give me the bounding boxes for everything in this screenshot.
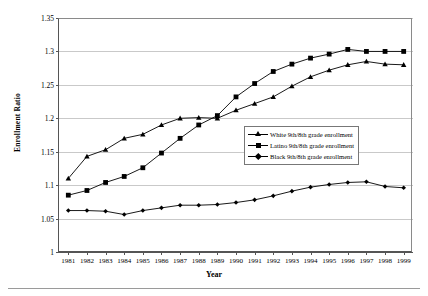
data-point [66,208,71,213]
data-point [289,62,294,67]
legend-marker-icon [248,141,268,150]
x-tick-mark [255,252,256,255]
data-point [66,193,71,198]
data-point [122,174,127,179]
x-tick-mark [217,252,218,255]
x-tick-mark [385,252,386,255]
x-tick-label: 1993 [285,257,299,265]
x-tick-label: 1995 [322,257,336,265]
chart-page: Enrollment Ratio 11.051.11.151.21.251.31… [0,0,428,296]
data-point [215,202,220,207]
data-point [271,69,276,74]
data-point [196,123,201,128]
data-point [85,188,90,193]
legend[interactable]: White 9th/8th grade enrollmentLatino 9th… [244,126,359,165]
x-tick-mark [366,252,367,255]
x-tick-label: 1994 [304,257,318,265]
y-axis-title: Enrollment Ratio [13,73,22,173]
data-point [364,49,369,54]
x-tick-label: 1985 [136,257,150,265]
x-tick-label: 1988 [192,257,206,265]
x-tick-mark [273,252,274,255]
legend-marker-icon [248,152,268,161]
x-tick-mark [292,252,293,255]
footer-divider [8,288,420,289]
data-point [345,180,350,185]
data-point [383,49,388,54]
data-point [383,184,388,189]
x-tick-label: 1996 [341,257,355,265]
data-point [140,165,145,170]
data-point [178,203,183,208]
data-point [103,147,108,152]
x-tick-label: 1999 [397,257,411,265]
y-tick-label: 1.2 [45,114,54,123]
x-tick-label: 1991 [248,257,262,265]
series-diamond [66,180,406,217]
x-tick-mark [68,252,69,255]
x-tick-mark [404,252,405,255]
series-lines [59,18,413,252]
legend-label: White 9th/8th grade enrollment [268,131,353,138]
data-point [159,206,164,211]
x-tick-mark [236,252,237,255]
data-point [271,194,276,199]
y-tick-label: 1.3 [45,47,54,56]
series-square [66,47,406,198]
data-point [159,151,164,156]
x-tick-label: 1982 [80,257,94,265]
legend-marker-icon [248,130,268,139]
x-tick-label: 1992 [266,257,280,265]
data-point [103,180,108,185]
x-tick-label: 1998 [378,257,392,265]
legend-item[interactable]: Black 9th/8th grade enrollment [248,151,354,162]
y-tick-label: 1.05 [41,214,54,223]
data-point [308,56,313,61]
data-point [271,94,276,99]
data-point [215,113,220,118]
x-axis-title: Year [0,270,428,279]
data-point [252,198,257,203]
data-point [401,186,406,191]
x-tick-label: 1987 [173,257,187,265]
data-point [140,132,145,137]
data-point [289,83,294,88]
data-point [290,189,295,194]
x-tick-mark [180,252,181,255]
y-tick-label: 1.15 [41,147,54,156]
data-point [252,81,257,86]
x-tick-mark [143,252,144,255]
data-point [234,200,239,205]
data-point [103,209,108,214]
legend-item[interactable]: Latino 9th/8th grade enrollment [248,140,354,151]
data-point [364,180,369,185]
x-tick-label: 1997 [359,257,373,265]
data-point [122,212,127,217]
x-tick-label: 1989 [210,257,224,265]
data-point [364,59,369,64]
x-tick-mark [161,252,162,255]
data-point [234,94,239,99]
legend-label: Black 9th/8th grade enrollment [268,153,352,160]
data-point [85,208,90,213]
plot-area: 11.051.11.151.21.251.31.35 1981198219831… [58,18,413,253]
data-point [178,136,183,141]
x-tick-mark [311,252,312,255]
data-point [196,203,201,208]
legend-item[interactable]: White 9th/8th grade enrollment [248,129,354,140]
data-point [401,49,406,54]
data-point [327,52,332,57]
x-tick-label: 1983 [99,257,113,265]
data-point [141,208,146,213]
x-tick-mark [348,252,349,255]
y-tick-label: 1.1 [45,181,54,190]
legend-label: Latino 9th/8th grade enrollment [268,142,354,149]
y-tick-label: 1.35 [41,14,54,23]
data-point [308,185,313,190]
x-tick-mark [199,252,200,255]
x-tick-label: 1990 [229,257,243,265]
x-tick-label: 1984 [117,257,131,265]
x-tick-mark [329,252,330,255]
data-point [345,47,350,52]
y-tick-label: 1.25 [41,80,54,89]
